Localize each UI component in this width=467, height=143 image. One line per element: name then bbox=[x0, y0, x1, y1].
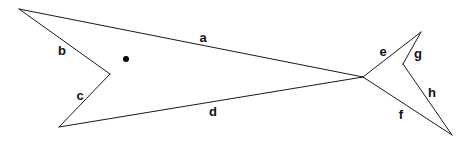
interior-point bbox=[123, 56, 129, 62]
edge-group bbox=[19, 9, 452, 135]
edge-d bbox=[59, 77, 363, 127]
edge-label-a: a bbox=[199, 31, 206, 44]
edge-label-c: c bbox=[76, 89, 83, 102]
edge-h bbox=[403, 64, 452, 135]
edge-f bbox=[363, 77, 452, 135]
edge-a bbox=[19, 9, 363, 77]
diagram-canvas bbox=[0, 0, 467, 143]
edge-label-g: g bbox=[414, 47, 422, 60]
edge-label-e: e bbox=[379, 45, 386, 58]
edge-label-d: d bbox=[209, 105, 217, 118]
edge-b bbox=[19, 9, 110, 74]
edge-label-b: b bbox=[58, 44, 66, 57]
edge-label-f: f bbox=[399, 108, 403, 121]
edge-e bbox=[363, 32, 421, 77]
edge-label-h: h bbox=[428, 86, 436, 99]
edge-c bbox=[59, 74, 110, 127]
